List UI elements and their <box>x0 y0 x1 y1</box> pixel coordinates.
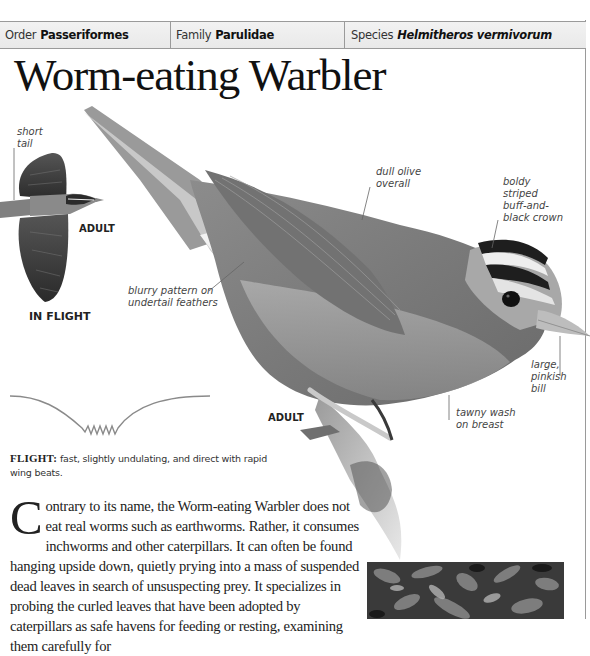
flight-description: FLIGHT: fast, slightly undulating, and d… <box>10 451 270 480</box>
callout-breast: tawny wash on breast <box>456 407 516 431</box>
leaf-litter-image <box>367 562 564 619</box>
in-flight-adult-label: ADULT <box>79 223 115 234</box>
flight-path-icon <box>10 396 210 434</box>
flight-heading: FLIGHT: <box>10 452 57 464</box>
callout-bill: large, pinkish bill <box>531 359 567 395</box>
main-bird <box>84 106 590 560</box>
species-description: C ontrary to its name, the Worm-eating W… <box>10 496 365 656</box>
callout-crown: boldy striped buff-and- black crown <box>503 176 563 224</box>
callout-short-tail: short tail <box>17 126 43 150</box>
description-text: ontrary to its name, the Worm-eating War… <box>10 498 359 654</box>
in-flight-caption: IN FLIGHT <box>29 310 90 323</box>
drop-cap: C <box>10 498 42 538</box>
habitat-photo <box>367 562 564 619</box>
callout-undertail: blurry pattern on undertail feathers <box>128 285 218 309</box>
main-adult-label: ADULT <box>268 412 304 423</box>
callout-dull-olive: dull olive overall <box>376 166 421 190</box>
